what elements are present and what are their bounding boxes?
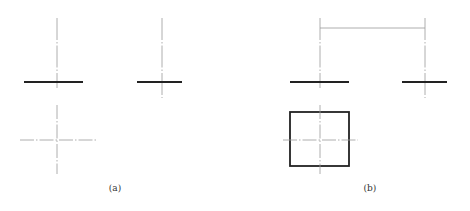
- panel-b: (b): [283, 18, 447, 193]
- panel-caption: (b): [364, 183, 377, 193]
- panel-a: (a): [20, 18, 182, 193]
- square-outline: [290, 112, 349, 166]
- technical-drawing: (a) (b): [0, 0, 470, 211]
- panel-caption: (a): [109, 183, 121, 193]
